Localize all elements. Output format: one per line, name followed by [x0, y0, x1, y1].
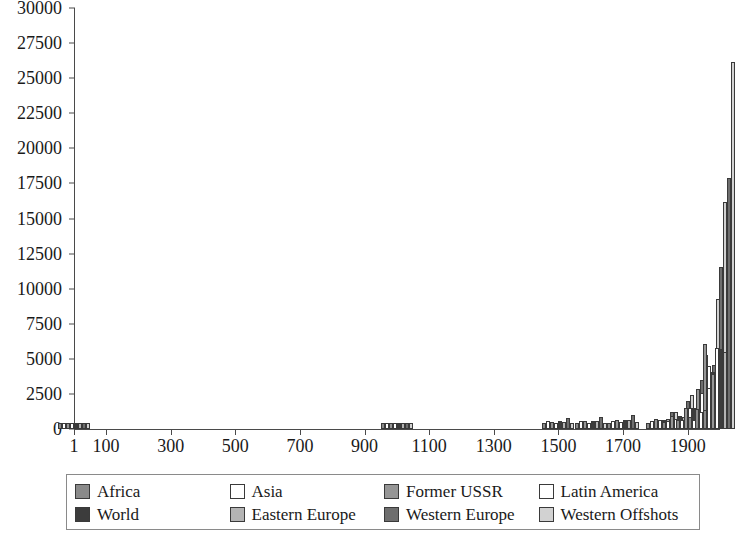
y-tick-label: 25000: [17, 68, 62, 89]
y-tick-label: 7500: [26, 313, 62, 334]
bar: [635, 422, 639, 429]
x-tick-label: 1700: [605, 436, 641, 457]
legend-label: Asia: [252, 483, 283, 500]
legend-swatch-icon: [230, 507, 245, 522]
bar-group: [542, 8, 574, 429]
x-tick-mark: [171, 429, 172, 435]
x-tick-mark: [74, 429, 75, 435]
x-tick-mark: [300, 429, 301, 435]
y-tick-label: 30000: [17, 0, 62, 19]
y-tick-label: 5000: [26, 348, 62, 369]
chart-legend: AfricaAsiaFormer USSRLatin AmericaWorldE…: [66, 474, 700, 530]
bar: [731, 62, 735, 429]
legend-label: Western Europe: [406, 506, 515, 523]
bar: [409, 423, 413, 429]
x-tick-label: 500: [222, 436, 249, 457]
y-tick-label: 12500: [17, 243, 62, 264]
bar-group: [381, 8, 413, 429]
x-tick-mark: [494, 429, 495, 435]
x-axis-labels: 110030050070090011001300150017001900: [0, 433, 726, 463]
legend-item[interactable]: Western Europe: [384, 506, 539, 523]
bar-group: [703, 8, 735, 429]
y-tick-label: 17500: [17, 173, 62, 194]
legend-label: World: [97, 506, 139, 523]
x-tick-mark: [106, 429, 107, 435]
x-tick-label: 900: [351, 436, 378, 457]
x-tick-label: 1: [70, 436, 79, 457]
x-tick-mark: [688, 429, 689, 435]
legend-item[interactable]: Africa: [75, 483, 230, 500]
legend-grid: AfricaAsiaFormer USSRLatin AmericaWorldE…: [75, 480, 693, 526]
legend-label: Africa: [97, 483, 140, 500]
x-tick-mark: [365, 429, 366, 435]
x-tick-mark: [235, 429, 236, 435]
y-tick-label: 15000: [17, 208, 62, 229]
y-tick-label: 10000: [17, 278, 62, 299]
legend-item[interactable]: Former USSR: [384, 483, 539, 500]
legend-label: Eastern Europe: [252, 506, 356, 523]
x-tick-label: 1900: [670, 436, 706, 457]
x-tick-mark: [558, 429, 559, 435]
y-tick-label: 20000: [17, 138, 62, 159]
legend-item[interactable]: Asia: [230, 483, 385, 500]
x-tick-mark: [429, 429, 430, 435]
x-tick-label: 1100: [411, 436, 446, 457]
x-tick-label: 100: [92, 436, 119, 457]
legend-label: Former USSR: [406, 483, 503, 500]
legend-item[interactable]: World: [75, 506, 230, 523]
legend-swatch-icon: [384, 507, 399, 522]
legend-swatch-icon: [75, 484, 90, 499]
legend-swatch-icon: [230, 484, 245, 499]
legend-label: Latin America: [561, 483, 659, 500]
x-tick-label: 300: [157, 436, 184, 457]
legend-item[interactable]: Eastern Europe: [230, 506, 385, 523]
x-tick-mark: [623, 429, 624, 435]
x-tick-label: 1500: [540, 436, 576, 457]
legend-swatch-icon: [539, 484, 554, 499]
x-tick-label: 1300: [476, 436, 512, 457]
bar: [86, 423, 90, 429]
legend-swatch-icon: [539, 507, 554, 522]
y-tick-label: 2500: [26, 383, 62, 404]
bar-group: [575, 8, 607, 429]
legend-swatch-icon: [384, 484, 399, 499]
bar-group: [58, 8, 90, 429]
x-tick-label: 700: [286, 436, 313, 457]
legend-item[interactable]: Western Offshots: [539, 506, 694, 523]
y-tick-label: 27500: [17, 33, 62, 54]
legend-label: Western Offshots: [561, 506, 679, 523]
legend-swatch-icon: [75, 507, 90, 522]
bar-group: [607, 8, 639, 429]
y-tick-label: 22500: [17, 103, 62, 124]
legend-item[interactable]: Latin America: [539, 483, 694, 500]
